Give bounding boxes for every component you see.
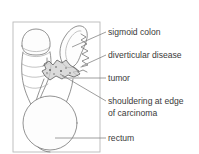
anatomical-diagram: sigmoid colon diverticular disease tumor… [0,0,199,154]
label-diverticular-disease: diverticular disease [108,50,182,60]
label-sigmoid-colon: sigmoid colon [108,27,161,37]
rectum-circle [23,96,77,150]
label-tumor: tumor [108,73,130,83]
label-rectum: rectum [108,133,134,143]
descending-colon-upper [22,29,50,55]
